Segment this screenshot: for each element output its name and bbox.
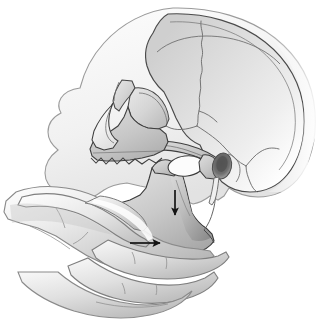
anatomical-illustration: Jaw thrust maneuver on lateral skull Gra… (0, 0, 325, 329)
skull-jaw-thrust-drawing (0, 0, 325, 329)
